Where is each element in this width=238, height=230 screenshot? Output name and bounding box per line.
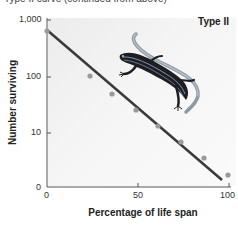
data-point: [225, 172, 230, 177]
x-tick-100: 100: [220, 190, 235, 200]
data-point: [155, 123, 160, 128]
chart-svg: [0, 0, 238, 230]
data-point: [109, 91, 114, 96]
data-point: [133, 107, 138, 112]
data-point: [87, 73, 92, 78]
curve-type-label: Type II: [198, 16, 229, 27]
y-tick-1000: 1,000: [19, 14, 42, 24]
y-tick-100: 100: [26, 71, 41, 81]
data-point: [44, 28, 49, 33]
y-tick-10: 10: [31, 127, 41, 137]
trend-line: [47, 30, 222, 180]
y-tick-0: 0: [36, 182, 41, 192]
data-point: [201, 155, 206, 160]
y-axis-label: Number surviving: [7, 58, 18, 148]
data-point: [178, 139, 183, 144]
x-tick-0: 0: [44, 190, 49, 200]
x-axis-label: Percentage of life span: [48, 207, 238, 218]
x-tick-50: 50: [133, 190, 143, 200]
